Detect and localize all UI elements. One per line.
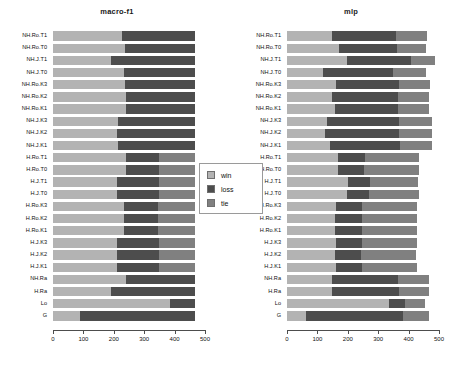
bar-segment-loss [111,287,195,296]
y-axis-tick-label: H.Ro.K3 [26,203,47,209]
bar-row [53,165,205,174]
bar-segment-win [53,68,124,77]
y-axis-tick-label: NH.J.T1 [26,57,47,63]
x-axis-tick [114,330,115,334]
y-axis-tick-label: NH.Ro.K1 [22,106,47,112]
bar-segment-win [287,117,327,126]
bar-segment-tie [362,238,417,247]
bar-row [287,202,439,211]
y-axis-tick-label: H.Ro.T0 [26,167,47,173]
panel-mlp: mlp NH.Ro.T1NH.Ro.T0NH.J.T1NH.J.T0NH.Ro.… [234,0,468,366]
bar-row [287,250,439,259]
legend-label-win: win [221,172,232,179]
bar-segment-tie [399,117,432,126]
bar-segment-loss [336,80,399,89]
bar-row [287,311,439,320]
bar-segment-loss [126,165,159,174]
bar-segment-win [53,80,125,89]
x-axis-tick-label: 500 [434,336,444,342]
bar-row [53,226,205,235]
bar-segment-loss [117,263,158,272]
bar-segment-win [53,141,118,150]
bar-segment-win [53,153,126,162]
y-axis-tick-label: H.J.K1 [30,264,47,270]
bar-row [287,153,439,162]
y-axis-tick-label: NH.J.T0 [26,70,47,76]
bar-row [287,141,439,150]
bar-segment-tie [411,56,435,65]
bar-segment-win [287,238,336,247]
bar-segment-win [287,68,323,77]
y-axis-tick-label: H.J.T1 [265,179,281,185]
y-axis-tick-label: H.Ra [34,289,47,295]
bar-row [53,190,205,199]
bar-row [287,80,439,89]
bar-segment-win [53,263,117,272]
bar-row [287,104,439,113]
bar-row [53,250,205,259]
y-axis-tick-label: NH.Ro.K3 [256,82,281,88]
legend-swatch-loss-icon [207,185,215,193]
bar-segment-win [287,104,335,113]
bar-segment-win [53,165,126,174]
x-axis-tick-label: 200 [109,336,119,342]
bar-segment-tie [159,190,195,199]
x-axis-tick [439,330,440,334]
bar-segment-loss [125,80,195,89]
bar-segment-loss [117,250,159,259]
y-axis-tick-label: H.J.T0 [265,191,281,197]
bar-segment-win [53,31,122,40]
bar-segment-loss [332,92,398,101]
bar-segment-tie [158,226,195,235]
bar-segment-win [287,190,347,199]
bar-segment-win [287,80,336,89]
bar-row [53,153,205,162]
bar-segment-tie [399,129,432,138]
y-axis-tick-label: G [277,313,281,319]
bar-row [53,129,205,138]
bar-segment-win [287,287,332,296]
x-axis-tick-label: 100 [312,336,322,342]
bar-segment-win [287,165,338,174]
bar-segment-loss [118,117,195,126]
bar-segment-win [287,250,335,259]
x-axis-tick [53,330,54,334]
bar-segment-loss [335,104,398,113]
x-axis-tick-label: 0 [285,336,288,342]
y-axis-tick-label: NH.J.T0 [260,70,281,76]
bar-row [53,104,205,113]
bar-row [53,214,205,223]
y-axis-tick-label: NH.Ra [30,276,47,282]
bar-segment-tie [403,311,429,320]
bar-segment-win [287,226,335,235]
y-axis-tick-label: NH.J.K3 [260,118,281,124]
x-axis-tick [83,330,84,334]
bar-segment-tie [393,68,426,77]
bar-segment-tie [400,141,432,150]
bar-segment-loss [330,141,401,150]
bar-segment-tie [399,287,429,296]
y-axis-tick-label: NH.J.K2 [26,130,47,136]
y-axis-tick-label: H.Ro.T1 [260,155,281,161]
legend-item-win: win [207,169,232,181]
bar-row [287,238,439,247]
bar-segment-tie [158,214,195,223]
plot-area-left [53,30,205,322]
bar-segment-loss [336,238,362,247]
y-axis-tick-label: NH.Ro.K2 [256,94,281,100]
y-axis-tick-label: H.Ro.K3 [260,203,281,209]
panel-title-right: mlp [234,7,468,16]
bar-row [287,263,439,272]
bar-row [53,56,205,65]
bar-segment-win [287,263,336,272]
bar-segment-loss [336,263,362,272]
x-axis-tick [348,330,349,334]
y-axis-tick-label: NH.Ro.T0 [256,45,281,51]
x-axis-right: 0100200300400500 [287,330,439,352]
bar-row [287,275,439,284]
bar-segment-tie [399,80,430,89]
x-axis-tick [378,330,379,334]
bar-segment-tie [362,226,417,235]
legend-swatch-tie-icon [207,199,215,207]
bar-segment-loss [347,56,411,65]
